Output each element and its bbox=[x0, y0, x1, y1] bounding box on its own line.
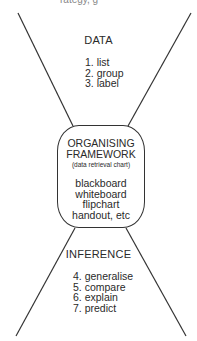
data-steps-list: 1. list 2. group 3. label bbox=[85, 57, 124, 89]
media-item: flipchart bbox=[58, 199, 144, 210]
framework-subtitle: (data retrieval chart) bbox=[58, 161, 144, 168]
data-step: 1. list bbox=[85, 57, 124, 68]
organising-framework-box: ORGANISING FRAMEWORK (data retrieval cha… bbox=[57, 125, 145, 228]
inference-step: 4. generalise bbox=[73, 271, 133, 282]
media-item: blackboard bbox=[58, 178, 144, 189]
inference-heading: INFERENCE bbox=[0, 248, 197, 260]
inference-steps-list: 4. generalise 5. compare 6. explain 7. p… bbox=[73, 271, 133, 313]
inference-step: 7. predict bbox=[73, 303, 133, 314]
inference-step: 6. explain bbox=[73, 292, 133, 303]
top-left-line bbox=[18, 13, 73, 126]
bottom-right-line bbox=[126, 228, 186, 336]
framework-title-line2: FRAMEWORK bbox=[58, 149, 144, 160]
data-step: 3. label bbox=[85, 78, 124, 89]
media-list: blackboard whiteboard flipchart handout,… bbox=[58, 178, 144, 220]
framework-title: ORGANISING FRAMEWORK bbox=[58, 138, 144, 160]
media-item: handout, etc bbox=[58, 210, 144, 221]
data-heading: DATA bbox=[0, 34, 197, 46]
cropped-top-text: rategy, g bbox=[60, 0, 98, 5]
bottom-left-line bbox=[16, 228, 75, 336]
top-right-line bbox=[128, 13, 191, 126]
